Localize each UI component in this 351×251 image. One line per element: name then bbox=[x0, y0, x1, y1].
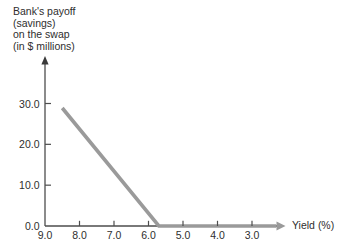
x-tick-label: 4.0 bbox=[210, 229, 225, 241]
chart-canvas: 9.08.07.06.05.04.03.00.010.020.030.0 bbox=[0, 0, 351, 251]
payoff-line bbox=[62, 108, 276, 226]
y-tick-label: 0.0 bbox=[25, 220, 40, 232]
x-tick-label: 7.0 bbox=[107, 229, 122, 241]
x-axis-label: Yield (%) bbox=[292, 220, 334, 231]
x-axis-arrowhead-icon bbox=[277, 222, 286, 231]
x-tick-label: 3.0 bbox=[245, 229, 260, 241]
x-tick-label: 9.0 bbox=[38, 229, 53, 241]
x-tick-label: 8.0 bbox=[72, 229, 87, 241]
x-tick-label: 6.0 bbox=[141, 229, 156, 241]
y-tick-label: 10.0 bbox=[19, 179, 40, 191]
y-tick-label: 30.0 bbox=[19, 98, 40, 110]
y-axis-arrowhead-icon bbox=[41, 56, 48, 65]
x-tick-label: 5.0 bbox=[176, 229, 191, 241]
y-tick-label: 20.0 bbox=[19, 138, 40, 150]
swap-payoff-figure: Bank's payoff (savings) on the swap (in … bbox=[0, 0, 351, 251]
